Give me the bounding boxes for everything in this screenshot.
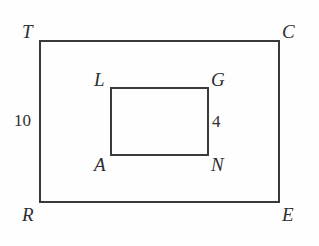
vertex-label-c: C bbox=[282, 22, 295, 41]
vertex-label-l: L bbox=[94, 70, 105, 89]
vertex-label-r: R bbox=[22, 205, 34, 224]
vertex-label-t: T bbox=[22, 22, 33, 41]
inner-rectangle-lgna bbox=[111, 88, 208, 155]
side-measure-inner-right: 4 bbox=[212, 113, 221, 130]
vertex-label-n: N bbox=[211, 155, 224, 174]
vertex-label-g: G bbox=[211, 70, 225, 89]
geometry-diagram: T C R E L G A N 10 4 bbox=[0, 0, 319, 246]
side-measure-outer-left: 10 bbox=[14, 112, 31, 129]
diagram-svg bbox=[0, 0, 319, 246]
outer-rectangle-tcer bbox=[40, 41, 279, 202]
vertex-label-e: E bbox=[282, 205, 294, 224]
vertex-label-a: A bbox=[94, 155, 106, 174]
